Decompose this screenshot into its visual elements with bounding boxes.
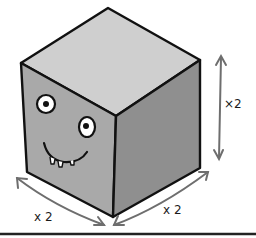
left-depth-label: x 2 — [34, 210, 53, 224]
left-eye-icon — [37, 95, 55, 113]
cube-illustration: ×2 x 2 x 2 — [0, 0, 256, 238]
height-label: ×2 — [224, 97, 242, 111]
illustration-canvas: ×2 x 2 x 2 — [0, 0, 256, 238]
right-eye-icon — [79, 117, 95, 137]
right-width-label: x 2 — [163, 203, 182, 217]
